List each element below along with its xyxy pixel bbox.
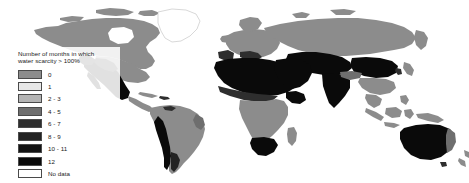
legend-item-1: 1 — [18, 80, 138, 92]
legend-item-8-9: 8 - 9 — [18, 130, 138, 142]
legend-item-12: 12 — [18, 155, 138, 167]
legend-item-no-data: No data — [18, 167, 138, 179]
legend-item-0: 0 — [18, 68, 138, 80]
legend-label-0: 0 — [48, 71, 52, 78]
legend-item-2-3: 2 - 3 — [18, 93, 138, 105]
map-legend: Number of months in which water scarcity… — [18, 50, 138, 180]
legend-title: Number of months in which water scarcity… — [18, 50, 138, 65]
legend-swatch-2-3 — [18, 94, 42, 103]
legend-item-6-7: 6 - 7 — [18, 118, 138, 130]
water-scarcity-map-figure: Number of months in which water scarcity… — [0, 0, 469, 183]
legend-item-4-5: 4 - 5 — [18, 105, 138, 117]
legend-item-10-11: 10 - 11 — [18, 142, 138, 154]
legend-swatch-12 — [18, 157, 42, 166]
legend-label-2-3: 2 - 3 — [48, 95, 61, 102]
legend-swatch-8-9 — [18, 132, 42, 141]
legend-label-no-data: No data — [48, 170, 70, 177]
legend-swatch-0 — [18, 70, 42, 79]
legend-label-4-5: 4 - 5 — [48, 108, 61, 115]
legend-label-10-11: 10 - 11 — [48, 145, 67, 152]
legend-swatch-4-5 — [18, 107, 42, 116]
legend-label-6-7: 6 - 7 — [48, 120, 61, 127]
legend-label-1: 1 — [48, 83, 52, 90]
legend-swatch-1 — [18, 82, 42, 91]
legend-swatch-no-data — [18, 169, 42, 178]
legend-swatch-6-7 — [18, 119, 42, 128]
legend-swatch-10-11 — [18, 144, 42, 153]
legend-label-8-9: 8 - 9 — [48, 133, 61, 140]
legend-label-12: 12 — [48, 158, 55, 165]
